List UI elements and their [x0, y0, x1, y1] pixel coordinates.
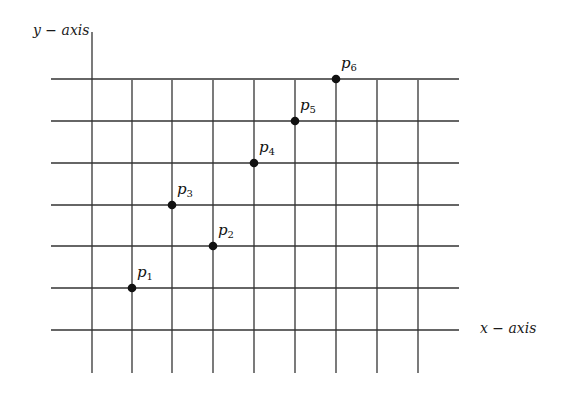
point-label-p4: p4: [259, 138, 275, 157]
point-p5: [291, 117, 300, 126]
point-label-p6: p6: [341, 54, 357, 73]
point-p3: [168, 201, 177, 210]
y-axis-label: y − axis: [33, 22, 89, 38]
point-label-p3: p3: [177, 180, 193, 199]
point-label-p5: p5: [300, 96, 316, 115]
point-p6: [332, 75, 341, 84]
point-label-p1: p1: [137, 263, 153, 282]
point-label-p2: p2: [218, 221, 234, 240]
x-axis-label: x − axis: [480, 320, 536, 336]
point-p4: [250, 159, 259, 168]
point-p2: [209, 242, 218, 251]
point-p1: [128, 284, 137, 293]
grid-diagram: y − axis x − axis p1p2p3p4p5p6: [0, 0, 571, 394]
